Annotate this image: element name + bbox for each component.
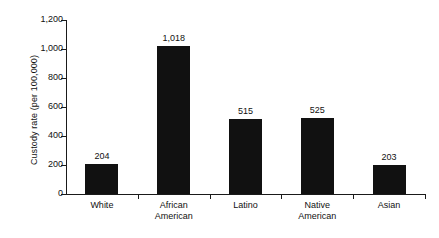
bar — [229, 119, 262, 194]
x-category-label: African American — [134, 200, 214, 222]
y-tick-label: 200 — [48, 159, 63, 169]
bar-value-label: 203 — [359, 152, 419, 162]
bar-value-label: 1,018 — [144, 33, 204, 43]
bar-value-label: 515 — [216, 106, 276, 116]
plot-area: 02004006008001,0001,200 2041,01851552520… — [66, 20, 425, 194]
bar — [373, 165, 406, 194]
x-tick-mark — [210, 194, 211, 199]
y-tick-label: 1,000 — [40, 43, 63, 53]
x-category-label: Asian — [349, 200, 429, 211]
bar — [301, 118, 334, 194]
y-tick-label: 400 — [48, 130, 63, 140]
y-tick-label: 0 — [58, 188, 63, 198]
y-tick-label: 800 — [48, 72, 63, 82]
x-tick-mark — [353, 194, 354, 199]
y-tick-label: 600 — [48, 101, 63, 111]
x-tick-mark — [281, 194, 282, 199]
x-tick-mark — [425, 194, 426, 199]
bar-value-label: 204 — [72, 151, 132, 161]
bar — [85, 164, 118, 194]
y-tick-label: 1,200 — [40, 14, 63, 24]
y-axis-title: Custody rate (per 100,000) — [29, 25, 39, 195]
bar-value-label: 525 — [287, 105, 347, 115]
x-category-label: Native American — [277, 200, 357, 222]
x-category-label: Latino — [206, 200, 286, 211]
x-axis-line — [66, 194, 425, 195]
x-tick-mark — [138, 194, 139, 199]
bar-chart: Custody rate (per 100,000) 0200400600800… — [0, 0, 439, 238]
y-axis-line — [66, 20, 67, 194]
bar — [157, 46, 190, 194]
x-category-label: White — [62, 200, 142, 211]
